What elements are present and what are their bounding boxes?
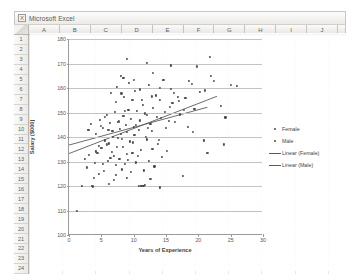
legend-item-linear-male[interactable]: Linear (Male) [268, 159, 342, 171]
y-tick-mark-180 [67, 39, 70, 40]
gridline-y-110 [69, 211, 262, 212]
row-header-1[interactable]: 1 [14, 35, 28, 45]
y-tick-mark-140 [67, 137, 70, 138]
row-header-14[interactable]: 14 [14, 164, 28, 174]
legend-item-female[interactable]: Female [268, 123, 342, 135]
legend-marker [268, 165, 282, 166]
row-header-6[interactable]: 6 [14, 85, 28, 95]
row-header-16[interactable]: 16 [14, 184, 28, 194]
gridline-y-160 [69, 88, 262, 89]
y-tick-mark-120 [67, 186, 70, 187]
legend-item-male[interactable]: Male [268, 135, 342, 147]
row-header-8[interactable]: 8 [14, 105, 28, 115]
title-bar: X Microsoft Excel [14, 11, 346, 24]
x-axis-title: Years of Experience [68, 247, 262, 253]
gridline-y-170 [69, 64, 262, 65]
gridline-y-180 [69, 39, 262, 40]
legend-dot-icon [274, 128, 276, 130]
row-header-7[interactable]: 7 [14, 95, 28, 105]
gridline-y-150 [69, 113, 262, 114]
row-header-15[interactable]: 15 [14, 174, 28, 184]
legend-label: Male [282, 138, 293, 144]
y-tick-mark-170 [67, 64, 70, 65]
row-header-24[interactable]: 24 [14, 264, 28, 274]
legend-dot-icon [274, 140, 276, 142]
gridline-y-130 [69, 162, 262, 163]
y-tick-mark-130 [67, 162, 70, 163]
y-tick-mark-160 [67, 88, 70, 89]
legend-line-icon [269, 153, 281, 154]
y-tick-mark-110 [67, 211, 70, 212]
row-header-19[interactable]: 19 [14, 214, 28, 224]
row-header-column: 123456789101112131415161718192021222324 [14, 35, 29, 274]
row-header-4[interactable]: 4 [14, 65, 28, 75]
legend-marker [268, 140, 282, 142]
row-header-11[interactable]: 11 [14, 135, 28, 145]
x-tick-label-10: 10 [131, 237, 137, 243]
x-tick-label-5: 5 [100, 237, 103, 243]
row-header-2[interactable]: 2 [14, 45, 28, 55]
y-tick-label-140: 140 [57, 134, 66, 140]
y-tick-label-120: 120 [57, 183, 66, 189]
row-header-13[interactable]: 13 [14, 154, 28, 164]
x-tick-label-30: 30 [260, 237, 266, 243]
y-tick-label-150: 150 [57, 110, 66, 116]
y-tick-mark-150 [67, 113, 70, 114]
select-all-corner[interactable] [14, 25, 29, 34]
legend-label: Linear (Female) [282, 150, 319, 156]
plot-area[interactable]: 100110120130140150160170180051015202530 [68, 39, 262, 235]
legend-line-icon [269, 165, 281, 166]
row-header-3[interactable]: 3 [14, 55, 28, 65]
x-tick-label-15: 15 [163, 237, 169, 243]
y-tick-label-130: 130 [57, 159, 66, 165]
x-tick-label-25: 25 [228, 237, 234, 243]
legend-marker [268, 128, 282, 130]
y-tick-label-180: 180 [57, 36, 66, 42]
row-header-23[interactable]: 23 [14, 254, 28, 264]
y-tick-label-110: 110 [58, 208, 66, 214]
row-header-22[interactable]: 22 [14, 244, 28, 254]
y-axis-title: Salary ($000) [29, 120, 35, 155]
legend-label: Linear (Male) [282, 162, 313, 168]
row-header-17[interactable]: 17 [14, 194, 28, 204]
chart-object[interactable]: 100110120130140150160170180051015202530 … [30, 33, 346, 271]
row-header-9[interactable]: 9 [14, 115, 28, 125]
row-header-10[interactable]: 10 [14, 125, 28, 135]
row-header-20[interactable]: 20 [14, 224, 28, 234]
row-header-21[interactable]: 21 [14, 234, 28, 244]
legend-item-linear-female[interactable]: Linear (Female) [268, 147, 342, 159]
row-header-12[interactable]: 12 [14, 144, 28, 154]
row-header-5[interactable]: 5 [14, 75, 28, 85]
x-tick-label-20: 20 [195, 237, 201, 243]
gridline-y-140 [69, 137, 262, 138]
legend-marker [268, 153, 282, 154]
excel-window: X Microsoft Excel ABCDEFGHIJ 12345678910… [0, 0, 353, 276]
y-tick-label-100: 100 [57, 232, 66, 238]
excel-icon: X [18, 14, 26, 22]
legend-label: Female [282, 126, 300, 132]
x-tick-label-0: 0 [68, 237, 71, 243]
window-title: Microsoft Excel [29, 15, 75, 22]
chart-legend[interactable]: FemaleMaleLinear (Female)Linear (Male) [268, 123, 342, 171]
y-tick-label-170: 170 [57, 61, 66, 67]
gridline-y-120 [69, 186, 262, 187]
row-header-18[interactable]: 18 [14, 204, 28, 214]
y-tick-label-160: 160 [57, 85, 66, 91]
